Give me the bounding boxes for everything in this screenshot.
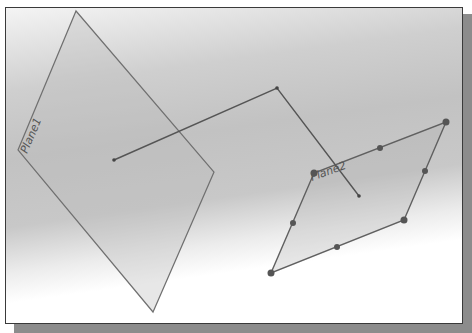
line-vertex[interactable]: [275, 86, 279, 90]
line-endpoint[interactable]: [112, 158, 116, 162]
line-endpoint[interactable]: [357, 194, 361, 198]
scene-canvas[interactable]: Plane1 Plane2: [0, 0, 472, 333]
plane1[interactable]: [18, 11, 214, 312]
